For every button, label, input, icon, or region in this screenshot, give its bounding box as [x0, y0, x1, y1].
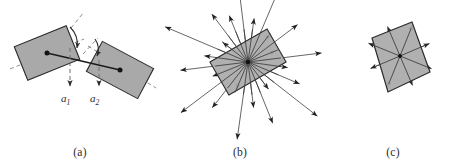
label-direction-vector-a2: a2 — [90, 92, 99, 107]
panel-c: (c) — [320, 0, 466, 162]
figure-container: a1 a2 (a) (b) — [0, 0, 466, 162]
panel-b: (b) — [160, 0, 320, 162]
label-direction-vector-a1: a1 — [61, 92, 70, 107]
rect-centroid-dot — [246, 60, 250, 64]
panel-b-graphic — [160, 0, 320, 132]
panel-a: a1 a2 (a) — [0, 0, 160, 162]
panel-c-graphic — [320, 0, 466, 132]
panel-a-graphic — [0, 0, 160, 132]
quad-centroid-dot — [398, 54, 402, 58]
caption-panel-b: (b) — [160, 146, 320, 158]
left-rect-reference-line — [71, 12, 84, 28]
caption-panel-a: (a) — [0, 146, 160, 158]
caption-panel-c: (c) — [320, 146, 466, 158]
